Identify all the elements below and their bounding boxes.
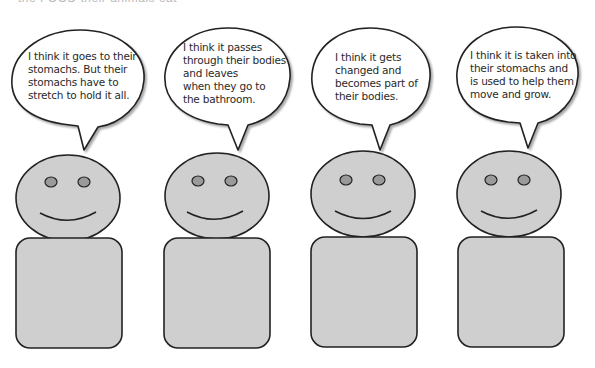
right-eye-4 [518,175,530,185]
left-eye-1 [45,177,57,187]
left-eye-4 [485,175,497,185]
speech-line: and leaves [183,67,286,80]
left-eye-2 [192,176,204,186]
speech-text-1: I think it goes to their stomachs. But t… [28,50,136,102]
speech-text-4: I think it is taken into their stomachs … [470,49,576,101]
body-2 [164,238,270,348]
head-3 [311,151,415,237]
speech-line: their bodies. [335,90,418,103]
body-3 [311,237,417,347]
speech-line: I think it is taken into [470,49,576,62]
speech-line: through their bodies [183,54,286,67]
right-eye-2 [225,176,237,186]
left-eye-3 [340,175,352,185]
speech-line: changed and [335,64,418,77]
head-1 [16,155,120,241]
speech-text-2: I think it passes through their bodies a… [183,41,286,106]
speech-line: I think it gets [335,51,418,64]
speech-line: becomes part of [335,77,418,90]
body-4 [458,237,564,347]
speech-line: their stomachs and [470,62,576,75]
speech-text-3: I think it gets changed and becomes part… [335,51,418,103]
speech-line: the bathroom. [183,93,286,106]
head-4 [457,151,561,237]
speech-line: stomachs. But their [28,63,136,76]
speech-line: when they go to [183,80,286,93]
speech-line: I think it goes to their [28,50,136,63]
body-1 [16,238,122,348]
head-2 [165,153,269,239]
right-eye-1 [78,177,90,187]
speech-line: stomachs have to [28,76,136,89]
speech-line: I think it passes [183,41,286,54]
speech-line: move and grow. [470,88,576,101]
speech-line: is used to help them [470,75,576,88]
right-eye-3 [373,175,385,185]
speech-line: stretch to hold it all. [28,89,136,102]
